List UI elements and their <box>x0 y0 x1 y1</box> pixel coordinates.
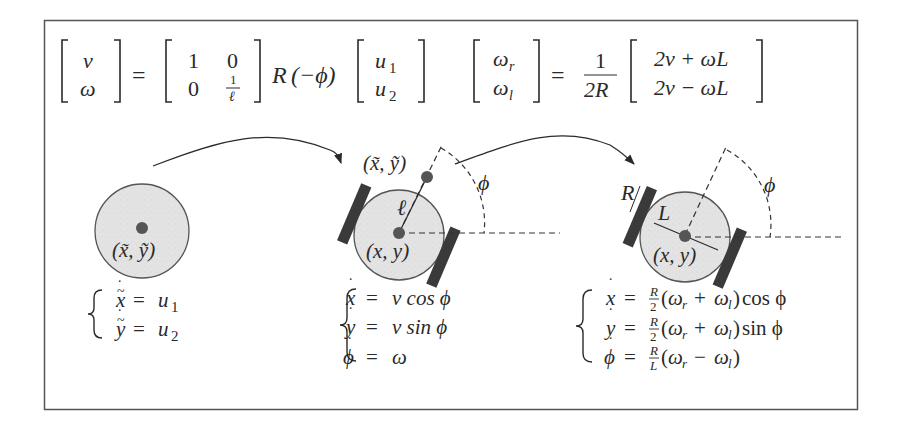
arrow-unicycle-to-diffdrive <box>455 136 634 164</box>
point-robot-equations: x ˙ ~ = u 1 y ˙ ~ = u 2 <box>88 277 179 344</box>
svg-text:(: ( <box>661 316 668 340</box>
svg-text:l: l <box>728 297 732 312</box>
offset-point-label: (x̃, ỹ) <box>363 151 406 175</box>
point-label: (x̃, ỹ) <box>112 238 155 262</box>
angle-label: ϕ <box>764 172 775 197</box>
svg-text:~: ~ <box>117 313 125 328</box>
lhs-omega-r: ω <box>493 46 509 71</box>
rotation-R: R <box>271 62 287 88</box>
rhs-row2: 2v − ωL <box>654 75 728 100</box>
matrix-a22-den: ℓ <box>229 89 235 104</box>
svg-text:=: = <box>366 286 378 310</box>
svg-text:˙: ˙ <box>608 305 613 322</box>
svg-text:ω: ω <box>392 345 407 369</box>
axle-length-label: L <box>657 200 670 225</box>
kinematic-models-diagram: v ω = 1 0 0 1 ℓ R (−ϕ) u 1 u 2 ω r ω l =… <box>0 0 901 425</box>
svg-text:+: + <box>694 316 706 340</box>
svg-text:r: r <box>682 327 688 342</box>
frac-num: 1 <box>595 48 606 73</box>
svg-text:=: = <box>624 316 636 340</box>
svg-text:r: r <box>682 356 688 371</box>
diffdrive-equations: x ˙ = R 2 ( ω r + ω l ) cos ϕ y ˙ = R 2 … <box>576 275 786 373</box>
equals: = <box>132 62 146 88</box>
svg-text:R: R <box>649 343 658 358</box>
center-point <box>393 227 405 239</box>
svg-text:v sin ϕ: v sin ϕ <box>392 315 447 339</box>
svg-text:l: l <box>509 88 513 103</box>
arrow-point-to-unicycle <box>153 137 341 166</box>
lhs-omega-l: ω <box>493 75 509 100</box>
svg-text:1: 1 <box>171 299 179 315</box>
svg-text:R: R <box>649 284 658 299</box>
svg-text:l: l <box>728 356 732 371</box>
svg-text:+: + <box>694 286 706 310</box>
svg-text:L: L <box>649 358 657 373</box>
svg-text:ω: ω <box>668 316 683 340</box>
svg-text:ω: ω <box>714 345 729 369</box>
svg-text:2: 2 <box>650 329 657 344</box>
svg-text:2: 2 <box>171 328 179 344</box>
rhs-u2: u <box>375 76 386 101</box>
lhs-omega: ω <box>80 76 96 101</box>
svg-text:(: ( <box>661 286 668 310</box>
svg-text:cos ϕ: cos ϕ <box>742 286 786 310</box>
lhs-v: v <box>83 48 93 73</box>
svg-text:l: l <box>728 327 732 342</box>
svg-text:r: r <box>509 59 515 74</box>
equation-wheel-speeds: ω r ω l = 1 2R 2v + ωL 2v − ωL <box>474 40 762 103</box>
svg-text:=: = <box>366 345 378 369</box>
svg-text:−: − <box>694 345 706 369</box>
svg-text:˙: ˙ <box>608 275 613 292</box>
svg-text:sin ϕ: sin ϕ <box>742 316 783 340</box>
length-label: ℓ <box>397 195 407 220</box>
svg-text:=: = <box>624 286 636 310</box>
svg-text:ω: ω <box>714 316 729 340</box>
svg-text:=: = <box>133 317 145 341</box>
svg-text:u: u <box>158 317 169 341</box>
svg-text:2: 2 <box>650 299 657 314</box>
svg-text:˙: ˙ <box>608 334 613 351</box>
frac-den: 2R <box>584 77 609 102</box>
point-robot: (x̃, ỹ) <box>95 184 189 278</box>
matrix-a12: 0 <box>227 48 238 73</box>
svg-text:): ) <box>733 316 740 340</box>
angle-label: ϕ <box>478 170 489 195</box>
wheel-radius-label: R <box>620 180 635 205</box>
svg-text:=: = <box>133 288 145 312</box>
matrix-a22-num: 1 <box>230 72 237 87</box>
center-label: (x, y) <box>366 239 409 263</box>
center-label: (x, y) <box>653 243 696 267</box>
svg-text:=: = <box>551 62 565 88</box>
reference-point <box>136 222 148 234</box>
matrix-a11: 1 <box>188 48 199 73</box>
svg-text:): ) <box>733 345 740 369</box>
svg-text:v cos ϕ: v cos ϕ <box>392 286 451 310</box>
svg-text:~: ~ <box>117 284 125 299</box>
svg-text:˙: ˙ <box>348 275 353 292</box>
svg-text:(: ( <box>661 345 668 369</box>
svg-text:ω: ω <box>668 286 683 310</box>
center-point <box>679 230 691 242</box>
unicycle-robot: (x̃, ỹ) ℓ (x, y) ϕ <box>335 145 560 288</box>
svg-text:2: 2 <box>389 88 397 104</box>
svg-text:u: u <box>158 288 169 312</box>
svg-text:R: R <box>649 314 658 329</box>
svg-text:): ) <box>733 286 740 310</box>
svg-text:˙: ˙ <box>348 304 353 321</box>
svg-text:1: 1 <box>389 60 397 76</box>
rotation-arg: (−ϕ) <box>291 62 336 88</box>
svg-text:˙: ˙ <box>347 334 352 351</box>
svg-text:=: = <box>624 345 636 369</box>
unicycle-equations: x ˙ = v cos ϕ y ˙ = v sin ϕ ϕ ˙ = ω <box>340 275 451 369</box>
equation-velocity-transform: v ω = 1 0 0 1 ℓ R (−ϕ) u 1 u 2 <box>62 40 424 104</box>
svg-text:ω: ω <box>668 345 683 369</box>
matrix-a21: 0 <box>188 76 199 101</box>
offset-point <box>421 171 433 183</box>
svg-text:ω: ω <box>714 286 729 310</box>
svg-text:=: = <box>366 315 378 339</box>
rhs-u1: u <box>375 48 386 73</box>
svg-text:r: r <box>682 297 688 312</box>
rhs-row1: 2v + ωL <box>654 46 728 71</box>
differential-drive-robot: R L (x, y) ϕ <box>620 145 845 289</box>
